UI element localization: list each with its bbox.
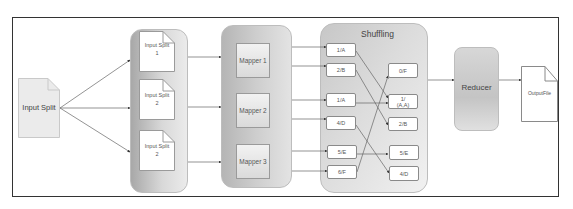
- shuffle-input-box: 1/A: [326, 93, 356, 107]
- split-label: Input Split: [139, 92, 175, 98]
- mapper-3: Mapper 3: [236, 144, 270, 179]
- input-split-label: Input Split: [18, 103, 60, 112]
- shuffle-output-box: 1/ (A,A): [388, 94, 418, 109]
- split-number: 1: [139, 50, 175, 56]
- shuffle-output-box: 0/F: [388, 63, 418, 78]
- split-number: 2: [139, 100, 175, 106]
- split-document: Input Split 2: [139, 130, 175, 171]
- shuffle-output-box: 4/D: [389, 166, 419, 181]
- mapper-1: Mapper 1: [236, 43, 270, 78]
- shuffle-input-box: 1/A: [326, 43, 356, 57]
- output-file-document: OutputFile: [521, 66, 558, 122]
- split-document: Input Split 2: [139, 79, 175, 120]
- output-file-label: OutputFile: [521, 90, 558, 96]
- shuffle-input-box: 2/B: [326, 63, 356, 77]
- shuffle-input-box: 6/F: [327, 165, 357, 179]
- split-label: Input Split: [139, 42, 175, 48]
- connector-lines: [0, 0, 573, 209]
- split-document: Input Split 1: [139, 31, 175, 72]
- shuffle-input-box: 5/E: [327, 145, 357, 159]
- input-split-document: Input Split: [18, 78, 60, 138]
- mapper-2: Mapper 2: [236, 93, 270, 128]
- shuffle-output-box: 5/E: [389, 145, 419, 160]
- shuffle-output-box: 2/B: [388, 117, 418, 131]
- split-number: 2: [139, 151, 175, 157]
- split-label: Input Split: [139, 143, 175, 149]
- shuffle-input-box: 4/D: [326, 116, 356, 130]
